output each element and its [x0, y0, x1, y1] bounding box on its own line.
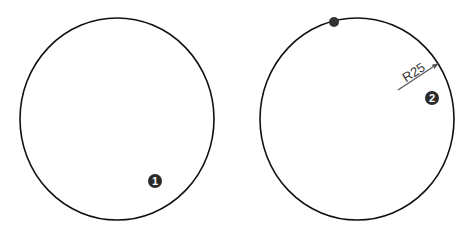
- badge-1: 1: [148, 174, 162, 188]
- figure-1: 1: [20, 18, 214, 220]
- badge-2-label: 2: [429, 92, 435, 104]
- badge-2: 2: [425, 91, 439, 105]
- radius-dimension: R25: [398, 59, 439, 90]
- point-marker: [329, 17, 339, 27]
- badge-1-label: 1: [152, 175, 158, 187]
- diagram-canvas: 1 R25 2: [0, 0, 473, 237]
- dimension-label: R25: [399, 59, 427, 85]
- circle-1: [20, 18, 214, 220]
- figure-2: R25 2: [260, 17, 454, 220]
- circle-2: [260, 18, 454, 220]
